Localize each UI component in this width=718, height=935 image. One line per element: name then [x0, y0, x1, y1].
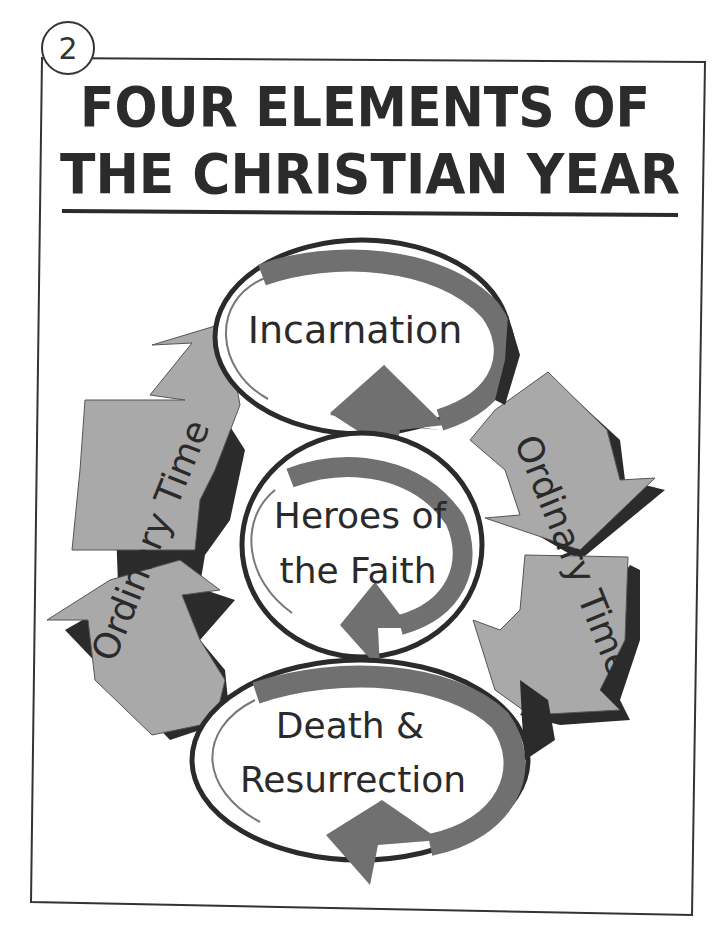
- diagram-canvas: 2 FOUR ELEMENTS OF THE CHRISTIAN YEAR Or…: [0, 0, 718, 935]
- death-label-line-1: Death &: [276, 705, 424, 746]
- heroes-label-line-1: Heroes of: [274, 495, 448, 536]
- title-line-1: FOUR ELEMENTS OF: [80, 74, 650, 139]
- page-title: FOUR ELEMENTS OF THE CHRISTIAN YEAR: [60, 74, 680, 215]
- title-line-2: THE CHRISTIAN YEAR: [60, 141, 680, 206]
- page-number: 2: [58, 31, 77, 66]
- death-label-line-2: Resurrection: [240, 759, 466, 800]
- heroes-label-line-2: the Faith: [280, 550, 437, 591]
- incarnation-label: Incarnation: [248, 308, 463, 352]
- page-number-badge: 2: [42, 22, 94, 74]
